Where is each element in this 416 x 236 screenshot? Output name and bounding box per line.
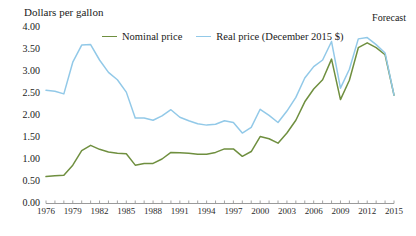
y-tick-label: 2.00 [10, 109, 40, 120]
series-line-real-price [46, 38, 394, 133]
x-tick-label: 1994 [192, 206, 222, 216]
x-tick-label: 1985 [111, 206, 141, 216]
y-tick-label: 2.50 [10, 87, 40, 98]
x-tick-label: 1982 [85, 206, 115, 216]
x-tick-label: 2003 [272, 206, 302, 216]
y-tick-label: 0.50 [10, 175, 40, 186]
gasoline-price-chart: Dollars per gallon Forecast Nominal pric… [0, 0, 416, 236]
plot-area [0, 0, 416, 236]
y-tick-label: 4.00 [10, 21, 40, 32]
x-tick-label: 1979 [58, 206, 88, 216]
x-tick-label: 2012 [352, 206, 382, 216]
x-tick-label: 1991 [165, 206, 195, 216]
x-tick-label: 2000 [245, 206, 275, 216]
x-tick-label: 2009 [325, 206, 355, 216]
y-tick-label: 3.00 [10, 65, 40, 76]
x-tick-label: 1976 [31, 206, 61, 216]
y-tick-label: 1.00 [10, 153, 40, 164]
x-tick-label: 2015 [379, 206, 409, 216]
y-tick-label: 3.50 [10, 43, 40, 54]
series-lines [46, 38, 394, 177]
y-tick-label: 1.50 [10, 131, 40, 142]
x-tick-label: 2006 [299, 206, 329, 216]
series-line-nominal-price [46, 43, 394, 177]
x-tick-label: 1997 [218, 206, 248, 216]
x-tick-label: 1988 [138, 206, 168, 216]
